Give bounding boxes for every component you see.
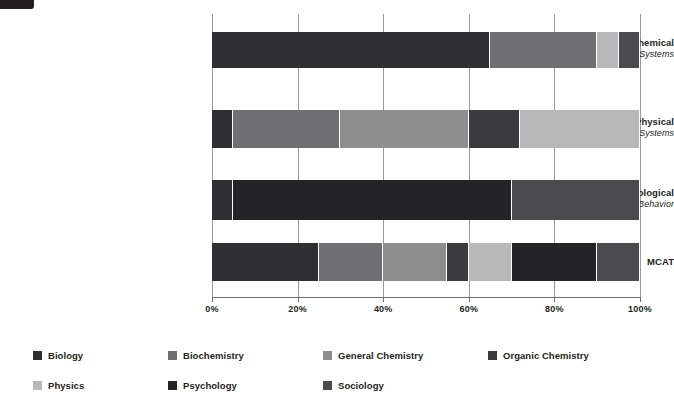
- legend-swatch-icon: [168, 351, 177, 360]
- x-axis-tick: [469, 297, 470, 302]
- x-axis-tick-label: 20%: [288, 304, 307, 314]
- legend-label: General Chemistry: [338, 350, 423, 361]
- legend-swatch-icon: [488, 351, 497, 360]
- legend-label: Biochemistry: [183, 350, 244, 361]
- legend-label: Organic Chemistry: [503, 350, 589, 361]
- legend-item[interactable]: Biochemistry: [168, 350, 244, 361]
- stacked-bar-chart: 0%20%40%60%80%100% Biological and Bioche…: [0, 0, 674, 330]
- legend-item[interactable]: Sociology: [323, 380, 384, 391]
- bar-segment-biochemistry: [319, 243, 383, 281]
- legend-swatch-icon: [323, 381, 332, 390]
- bar-segment-psychology: [233, 180, 511, 220]
- x-axis-tick-label: 100%: [628, 304, 652, 314]
- legend-swatch-icon: [33, 381, 42, 390]
- bar-segment-sociology: [512, 180, 640, 220]
- bar-segment-organic-chemistry: [469, 110, 520, 148]
- bar-segment-general-chemistry: [340, 110, 468, 148]
- bar-segment-organic-chemistry: [447, 243, 468, 281]
- chart-legend: BiologyBiochemistryGeneral ChemistryOrga…: [0, 338, 674, 419]
- stacked-bar: [212, 110, 640, 148]
- bar-segment-physics: [520, 110, 640, 148]
- legend-item[interactable]: Organic Chemistry: [488, 350, 589, 361]
- legend-label: Biology: [48, 350, 83, 361]
- x-axis-tick: [640, 297, 641, 302]
- legend-swatch-icon: [323, 351, 332, 360]
- bar-segment-biology: [212, 110, 233, 148]
- legend-label: Sociology: [338, 380, 384, 391]
- legend-item[interactable]: Psychology: [168, 380, 237, 391]
- bar-segment-general-chemistry: [383, 243, 447, 281]
- x-axis-tick-label: 40%: [374, 304, 393, 314]
- x-axis-tick: [298, 297, 299, 302]
- stacked-bar: [212, 32, 640, 68]
- bar-segment-physics: [597, 32, 618, 68]
- x-axis-tick: [212, 297, 213, 302]
- bar-segment-sociology: [597, 243, 640, 281]
- bar-segment-biology: [212, 32, 490, 68]
- legend-label: Physics: [48, 380, 84, 391]
- legend-label: Psychology: [183, 380, 237, 391]
- legend-item[interactable]: General Chemistry: [323, 350, 423, 361]
- x-axis-tick: [554, 297, 555, 302]
- legend-item[interactable]: Biology: [33, 350, 83, 361]
- x-axis-line: [212, 297, 641, 298]
- x-axis-tick-label: 80%: [545, 304, 564, 314]
- x-axis-tick-label: 0%: [205, 304, 218, 314]
- bar-segment-psychology: [512, 243, 598, 281]
- legend-swatch-icon: [168, 381, 177, 390]
- x-axis-tick: [383, 297, 384, 302]
- bar-segment-biochemistry: [490, 32, 597, 68]
- bar-segment-biology: [212, 180, 233, 220]
- legend-item[interactable]: Physics: [33, 380, 84, 391]
- stacked-bar: [212, 243, 640, 281]
- bar-segment-sociology: [619, 32, 640, 68]
- legend-swatch-icon: [33, 351, 42, 360]
- bar-segment-biochemistry: [233, 110, 340, 148]
- bar-segment-physics: [469, 243, 512, 281]
- stacked-bar: [212, 180, 640, 220]
- x-axis-tick-label: 60%: [459, 304, 478, 314]
- bar-segment-biology: [212, 243, 319, 281]
